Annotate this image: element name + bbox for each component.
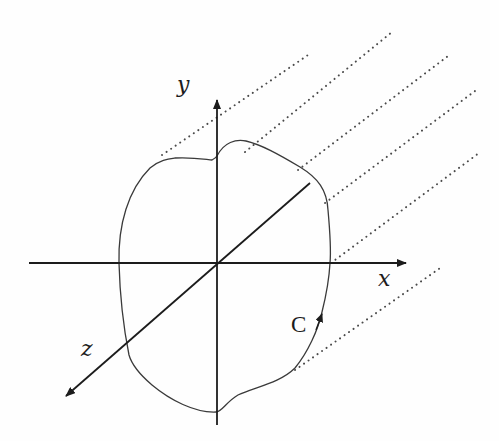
diagram-canvas: y x z C <box>0 0 499 441</box>
curve-orientation-arrow <box>316 314 322 330</box>
closed-curve-c <box>119 140 330 412</box>
projection-line-5 <box>331 153 479 263</box>
projection-line-1 <box>162 55 308 155</box>
z-axis-label: z <box>81 338 93 360</box>
z-axis <box>66 183 310 396</box>
x-axis-label: x <box>378 268 390 290</box>
projection-line-3 <box>298 56 448 170</box>
diagram-svg <box>0 0 499 441</box>
projection-line-6 <box>295 266 443 370</box>
y-axis-label: y <box>177 74 189 96</box>
projection-line-4 <box>325 91 475 203</box>
projection-line-2 <box>245 32 392 152</box>
curve-label-c: C <box>291 313 306 336</box>
